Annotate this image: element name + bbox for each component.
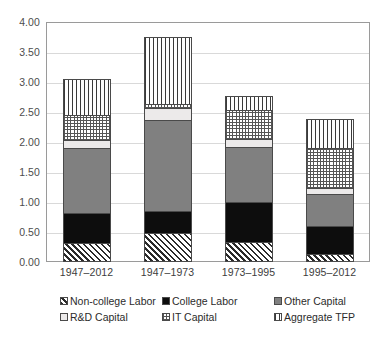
y-axis-tick-label: 3.00 — [0, 76, 40, 88]
bar-segment[interactable] — [225, 110, 273, 139]
bar-segment[interactable] — [306, 254, 354, 262]
y-axis-tick-label: 1.50 — [0, 166, 40, 178]
x-axis-tick-label: 1947–2012 — [46, 266, 127, 278]
legend-item[interactable]: Non-college Labor — [60, 296, 156, 307]
legend-label: Aggregate TFP — [284, 312, 355, 323]
stacked-bar[interactable] — [225, 96, 273, 262]
legend-swatch-icon — [162, 313, 170, 321]
y-axis-tick-label: 0.00 — [0, 256, 40, 268]
bar-segment[interactable] — [63, 79, 111, 115]
stacked-bar[interactable] — [144, 37, 192, 262]
y-axis: 4.003.503.002.502.001.501.000.500.00 — [0, 0, 42, 339]
bar-segment[interactable] — [144, 211, 192, 233]
y-axis-tick-label: 2.50 — [0, 106, 40, 118]
bar-segment[interactable] — [225, 147, 273, 202]
bar-segment[interactable] — [225, 202, 273, 242]
bar-slot — [127, 22, 208, 262]
legend-item[interactable]: Other Capital — [274, 296, 346, 307]
y-axis-tick-label: 4.00 — [0, 16, 40, 28]
bar-segment[interactable] — [225, 242, 273, 262]
legend-item[interactable]: R&D Capital — [60, 312, 128, 323]
legend-swatch-icon — [274, 297, 282, 305]
bar-segment[interactable] — [144, 120, 192, 211]
bars-container — [46, 22, 370, 262]
bar-segment[interactable] — [63, 115, 111, 140]
legend-row: R&D CapitalIT CapitalAggregate TFP — [46, 312, 376, 327]
y-axis-tick-label: 0.50 — [0, 226, 40, 238]
stacked-bar[interactable] — [63, 79, 111, 262]
bar-segment[interactable] — [225, 139, 273, 147]
bar-segment[interactable] — [306, 226, 354, 254]
bar-segment[interactable] — [63, 243, 111, 262]
x-axis: 1947–20121947–19731973–19951995–2012 — [46, 266, 370, 284]
legend-item[interactable]: Aggregate TFP — [274, 312, 355, 323]
bar-slot — [208, 22, 289, 262]
bar-segment[interactable] — [306, 148, 354, 188]
legend-label: IT Capital — [172, 312, 217, 323]
y-axis-tick-label: 3.50 — [0, 46, 40, 58]
bar-slot — [289, 22, 370, 262]
stacked-bar-chart-figure: 4.003.503.002.502.001.501.000.500.00 194… — [0, 0, 383, 339]
bar-segment[interactable] — [306, 119, 354, 148]
legend-label: R&D Capital — [70, 312, 128, 323]
stacked-bar[interactable] — [306, 119, 354, 262]
bar-segment[interactable] — [63, 140, 111, 148]
legend-label: Non-college Labor — [70, 296, 156, 307]
bar-segment[interactable] — [144, 37, 192, 104]
y-axis-tick-label: 1.00 — [0, 196, 40, 208]
y-axis-tick-label: 2.00 — [0, 136, 40, 148]
legend-label: College Labor — [172, 296, 237, 307]
legend-row: Non-college LaborCollege LaborOther Capi… — [46, 296, 376, 311]
legend-swatch-icon — [274, 313, 282, 321]
bar-segment[interactable] — [306, 194, 354, 226]
legend-label: Other Capital — [284, 296, 346, 307]
bar-segment[interactable] — [144, 233, 192, 262]
legend-swatch-icon — [60, 313, 68, 321]
bar-segment[interactable] — [63, 148, 111, 213]
x-axis-tick-label: 1973–1995 — [208, 266, 289, 278]
bar-segment[interactable] — [225, 96, 273, 110]
legend-item[interactable]: College Labor — [162, 296, 237, 307]
legend-swatch-icon — [162, 297, 170, 305]
x-axis-tick-label: 1947–1973 — [127, 266, 208, 278]
legend-swatch-icon — [60, 297, 68, 305]
bar-slot — [46, 22, 127, 262]
x-axis-tick-label: 1995–2012 — [289, 266, 370, 278]
bar-segment[interactable] — [144, 108, 192, 120]
legend-item[interactable]: IT Capital — [162, 312, 217, 323]
chart-legend: Non-college LaborCollege LaborOther Capi… — [46, 296, 376, 330]
bar-segment[interactable] — [63, 213, 111, 243]
